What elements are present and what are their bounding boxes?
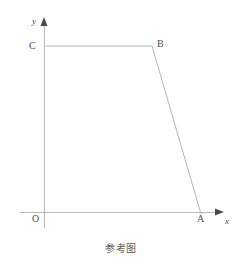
x-axis-label: x <box>225 217 229 226</box>
figure-caption: 参考图 <box>0 240 242 255</box>
coordinate-diagram <box>0 0 242 267</box>
y-axis-label: y <box>32 17 36 26</box>
point-label-c: C <box>29 41 36 51</box>
point-label-b: B <box>157 39 164 49</box>
point-label-a: A <box>197 214 204 224</box>
y-axis-arrowhead <box>41 17 48 26</box>
figure-container: y x O C B A 参考图 <box>0 0 242 267</box>
segment-ba <box>152 46 201 214</box>
origin-label: O <box>32 214 39 224</box>
x-axis-arrowhead <box>215 209 224 216</box>
